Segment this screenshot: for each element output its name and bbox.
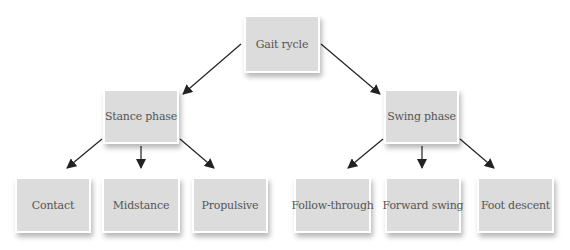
node-propulsive: Propulsive	[192, 177, 268, 233]
node-foot-descent: Foot descent	[477, 177, 554, 233]
node-follow-through: Follow-through	[294, 177, 371, 233]
node-swing-phase: Swing phase	[384, 89, 459, 144]
arrow-gait-cycle-to-swing-phase	[321, 44, 380, 94]
arrow-stance-phase-to-contact	[67, 139, 102, 168]
node-gait-cycle: Gait rycle	[244, 15, 320, 73]
arrow-swing-phase-to-foot-descent	[460, 139, 494, 168]
node-midstance: Midstance	[102, 177, 180, 233]
node-contact: Contact	[15, 177, 91, 233]
arrow-gait-cycle-to-stance-phase	[183, 44, 241, 94]
node-forward-swing: Forward swing	[385, 177, 461, 233]
node-stance-phase: Stance phase	[103, 89, 179, 144]
gait-cycle-diagram: Gait rycle Stance phase Swing phase Cont…	[0, 0, 570, 250]
arrow-stance-phase-to-propulsive	[180, 139, 214, 168]
arrow-swing-phase-to-follow-through	[348, 139, 383, 168]
